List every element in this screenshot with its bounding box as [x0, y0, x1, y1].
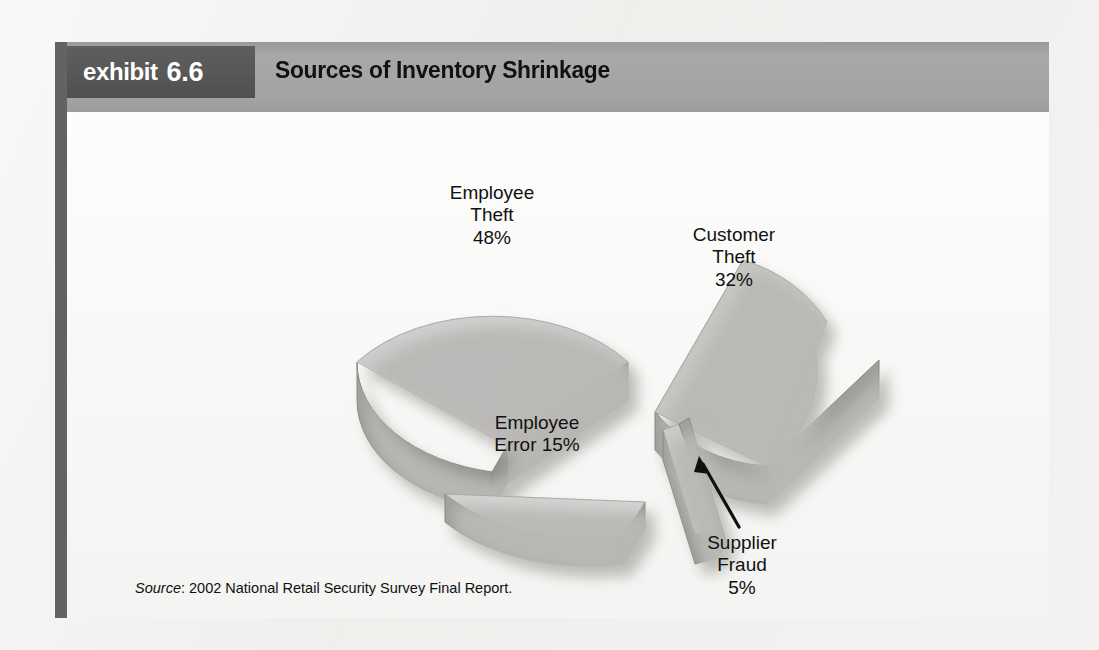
slice-employee-error: [445, 494, 645, 566]
exhibit-badge-number: 6.6: [167, 59, 204, 86]
label-employee-theft-line1: Employee: [397, 182, 587, 204]
label-employee-theft: Employee Theft 48%: [397, 182, 587, 249]
label-employee-error-line2: Error 15%: [437, 434, 637, 456]
label-customer-theft-line2: Theft: [639, 246, 829, 268]
label-supplier-fraud-line3: 5%: [657, 577, 827, 599]
exhibit-banner: exhibit 6.6 Sources of Inventory Shrinka…: [67, 42, 1049, 112]
exhibit-badge-word: exhibit: [83, 60, 158, 84]
source-note-separator: :: [181, 580, 189, 596]
label-supplier-fraud-line2: Fraud: [657, 554, 827, 576]
label-employee-theft-line3: 48%: [397, 227, 587, 249]
page-title: Sources of Inventory Shrinkage: [275, 56, 610, 84]
label-supplier-fraud: Supplier Fraud 5%: [657, 532, 827, 599]
source-note: Source: 2002 National Retail Security Su…: [135, 580, 512, 596]
label-customer-theft: Customer Theft 32%: [639, 224, 829, 291]
exhibit-frame: exhibit 6.6 Sources of Inventory Shrinka…: [55, 42, 1049, 618]
source-note-text: 2002 National Retail Security Survey Fin…: [189, 580, 512, 596]
label-employee-theft-line2: Theft: [397, 204, 587, 226]
pie-chart: Employee Theft 48% Customer Theft 32% Em…: [67, 112, 1049, 618]
source-note-label: Source: [135, 580, 181, 596]
label-employee-error: Employee Error 15%: [437, 412, 637, 457]
left-rail-accent: [55, 42, 67, 618]
label-supplier-fraud-line1: Supplier: [657, 532, 827, 554]
label-employee-error-line1: Employee: [437, 412, 637, 434]
exhibit-badge: exhibit 6.6: [67, 46, 255, 98]
label-customer-theft-line3: 32%: [639, 269, 829, 291]
label-customer-theft-line1: Customer: [639, 224, 829, 246]
